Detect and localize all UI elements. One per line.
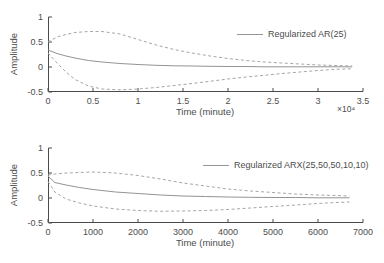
y-tick-label: -0.5 (27, 87, 43, 98)
y-tick-label: 0.5 (30, 168, 43, 179)
legend-line-sample-icon (203, 165, 229, 166)
x-tick-label: 1 (135, 96, 140, 107)
y-tick-label: -0.5 (27, 218, 43, 229)
x-tick-label: 5000 (263, 227, 283, 238)
x-tick-label: 2000 (128, 227, 148, 238)
y-tick-label: 0.5 (30, 37, 43, 48)
x-tick-label: 7000 (353, 227, 373, 238)
x-tick-label: 3.5 (357, 96, 370, 107)
subplot-regularized-ar25: Amplitude 00.511.522.533.5 10.50-0.5 Tim… (0, 0, 384, 131)
series-confidence-lower (48, 53, 352, 90)
y-axis-label: Amplitude (8, 33, 19, 75)
series-impulse-response (48, 50, 352, 67)
figure: Amplitude 00.511.522.533.5 10.50-0.5 Tim… (0, 0, 384, 263)
subplot-regularized-arx: Amplitude 01000200030004000500060007000 … (0, 131, 384, 263)
series-impulse-response (48, 176, 350, 198)
x-axis-label: Time (minute) (176, 106, 234, 117)
legend: Regularized AR(25) (237, 29, 347, 39)
x-tick-label: 3 (315, 96, 320, 107)
x-axis-exponent-label: ×10⁴ (337, 104, 355, 114)
legend: Regularized ARX(25,50,50,10,10) (203, 160, 369, 170)
x-tick-label: 0.5 (87, 96, 100, 107)
x-tick-label: 2.5 (267, 96, 280, 107)
y-tick-label: 0 (38, 193, 43, 204)
x-tick-label: 0 (45, 96, 50, 107)
x-tick-label: 0 (45, 227, 50, 238)
x-tick-label: 1000 (83, 227, 103, 238)
y-tick-label: 0 (38, 62, 43, 73)
x-axis-label: Time (minute) (176, 237, 234, 248)
y-tick-label: 1 (38, 12, 43, 23)
series-confidence-upper (48, 172, 350, 196)
legend-line-sample-icon (237, 34, 263, 35)
legend-entry-label: Regularized AR(25) (268, 29, 347, 39)
y-tick-label: 1 (38, 143, 43, 154)
y-axis-label: Amplitude (8, 164, 19, 206)
legend-entry-label: Regularized ARX(25,50,50,10,10) (234, 160, 369, 170)
x-tick-label: 6000 (308, 227, 328, 238)
